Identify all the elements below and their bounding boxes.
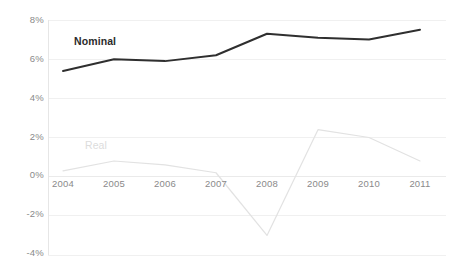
x-tick-label-2004: 2004 bbox=[43, 178, 83, 189]
series-line-nominal bbox=[63, 30, 420, 71]
y-tick-label-2: 2% bbox=[14, 131, 44, 142]
y-tick-label-6: 6% bbox=[14, 53, 44, 64]
series-label-real: Real bbox=[85, 139, 107, 151]
y-tick-label-neg2: -2% bbox=[14, 208, 44, 219]
x-tick-label-2011: 2011 bbox=[400, 178, 440, 189]
y-tick-label-8: 8% bbox=[14, 14, 44, 25]
x-tick-label-2010: 2010 bbox=[349, 178, 389, 189]
y-tick-label-4: 4% bbox=[14, 92, 44, 103]
x-tick-label-2008: 2008 bbox=[247, 178, 287, 189]
gridlines-group bbox=[48, 20, 446, 255]
x-tick-label-2007: 2007 bbox=[196, 178, 236, 189]
x-tick-label-2005: 2005 bbox=[94, 178, 134, 189]
y-tick-label-neg4: -4% bbox=[14, 247, 44, 258]
series-label-nominal: Nominal bbox=[74, 35, 116, 47]
x-tick-label-2009: 2009 bbox=[298, 178, 338, 189]
x-tick-label-2006: 2006 bbox=[145, 178, 185, 189]
chart-plot-area bbox=[0, 0, 458, 268]
line-chart: 8% 6% 4% 2% 0% -2% -4% 2004 2005 2006 20… bbox=[0, 0, 458, 268]
series-group bbox=[63, 30, 420, 236]
y-tick-label-0: 0% bbox=[14, 169, 44, 180]
